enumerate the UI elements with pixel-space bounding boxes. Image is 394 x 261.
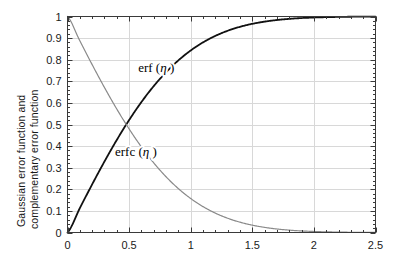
y-tick-label: 0.3 — [46, 162, 61, 174]
axis-tick-labels: 00.511.522.500.10.20.30.40.50.60.70.80.9… — [46, 11, 383, 251]
x-tick-label: 2 — [311, 239, 317, 251]
plot-frame — [68, 17, 376, 233]
y-tick-label: 0.4 — [46, 140, 61, 152]
y-tick-label: 0.9 — [46, 32, 61, 44]
data-curves — [68, 17, 376, 233]
curve-annotations: erf (η )erf (η )erfc (η )erfc (η ) — [115, 60, 174, 159]
y-tick-label: 0.1 — [46, 205, 61, 217]
curve-label-erfc: erfc (η )erfc (η ) — [115, 144, 157, 159]
curve-erfc — [68, 17, 376, 233]
y-tick-label: 0.7 — [46, 75, 61, 87]
y-tick-label: 0.5 — [46, 119, 61, 131]
curve-label-text: erfc (η ) — [115, 144, 157, 159]
figure-canvas: Gaussian error function and complementar… — [0, 0, 394, 261]
y-tick-label: 0 — [55, 227, 61, 239]
y-tick-label: 1 — [55, 11, 61, 23]
x-tick-label: 1.5 — [245, 239, 260, 251]
y-tick-label: 0.6 — [46, 97, 61, 109]
x-tick-label: 2.5 — [368, 239, 383, 251]
y-tick-label: 0.8 — [46, 54, 61, 66]
x-tick-label: 0 — [64, 239, 70, 251]
x-tick-label: 0.5 — [121, 239, 136, 251]
y-tick-label: 0.2 — [46, 183, 61, 195]
curve-label-erf: erf (η )erf (η ) — [138, 60, 174, 75]
curve-label-text: erf (η ) — [138, 60, 174, 75]
curve-erf — [68, 17, 376, 233]
chart-plot: 00.511.522.500.10.20.30.40.50.60.70.80.9… — [0, 0, 394, 261]
plot-border — [68, 17, 376, 233]
grid-lines — [68, 17, 376, 233]
x-tick-label: 1 — [188, 239, 194, 251]
